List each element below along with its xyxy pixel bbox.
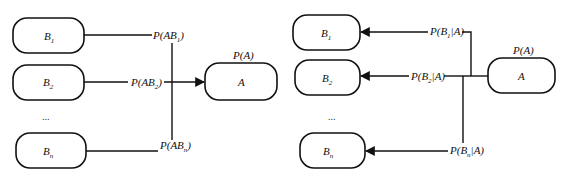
probability-diagrams: B1 B2 ... Bn A P(A) P(AB1) P(AB2) P(ABn) — [0, 0, 567, 180]
right-diagram: B1 B2 ... Bn A P(A) P(B1|A) P(B2|A) — [293, 15, 555, 168]
right-prob-a: P(A) — [512, 44, 534, 57]
left-node-a: A P(A) — [205, 49, 277, 100]
right-node-bn: Bn — [300, 133, 365, 168]
right-node-b1: B1 — [293, 15, 360, 50]
right-bus-b1 — [462, 32, 471, 76]
left-node-b2: B2 — [13, 65, 84, 100]
svg-text:A: A — [237, 76, 245, 88]
svg-text:A: A — [517, 70, 525, 82]
left-diagram: B1 B2 ... Bn A P(A) P(AB1) P(AB2) P(ABn) — [13, 18, 277, 168]
left-prob-a: P(A) — [232, 49, 254, 62]
left-label-pab2: P(AB2) — [130, 76, 162, 91]
left-label-pab1: P(AB1) — [152, 29, 184, 44]
right-ellipsis: ... — [328, 111, 336, 122]
right-label-pbna: P(Bn|A) — [449, 144, 484, 159]
left-node-bn: Bn — [16, 133, 86, 168]
right-label-pb2a: P(B2|A) — [410, 70, 445, 85]
left-label-pabn: P(ABn) — [159, 139, 191, 154]
left-ellipsis: ... — [42, 111, 50, 122]
right-label-pb1a: P(B1|A) — [429, 25, 464, 40]
left-node-b1: B1 — [13, 18, 84, 53]
right-node-b2: B2 — [295, 60, 360, 95]
right-node-a: A P(A) — [488, 44, 555, 93]
